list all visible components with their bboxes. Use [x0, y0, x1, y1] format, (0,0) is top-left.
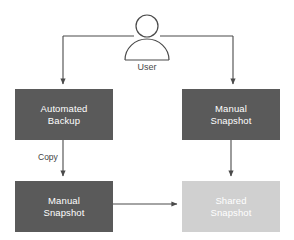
node-manual-snapshot-bottom-label: Manual Snapshot: [44, 195, 85, 219]
node-shared-snapshot-label: Shared Snapshot: [211, 195, 252, 219]
node-shared-snapshot[interactable]: Shared Snapshot: [182, 181, 280, 232]
node-automated-backup[interactable]: Automated Backup: [15, 89, 113, 140]
node-manual-snapshot-top[interactable]: Manual Snapshot: [182, 89, 280, 140]
edge-label-copy: Copy: [38, 152, 58, 162]
node-automated-backup-label: Automated Backup: [41, 103, 88, 127]
user-actor-label: User: [117, 62, 177, 72]
node-manual-snapshot-bottom[interactable]: Manual Snapshot: [15, 181, 113, 232]
diagram-canvas: User Automated Backup Manual Snapshot Ma…: [0, 0, 294, 240]
person-icon: [125, 15, 169, 60]
node-manual-snapshot-top-label: Manual Snapshot: [211, 103, 252, 127]
